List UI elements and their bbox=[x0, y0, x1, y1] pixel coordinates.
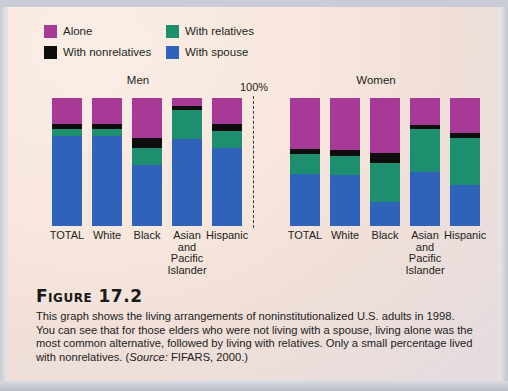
bar-segment-alone bbox=[212, 98, 242, 124]
x-axis-label: AsianandPacificIslander bbox=[166, 230, 208, 276]
x-axis-label-line: Hispanic bbox=[206, 230, 248, 242]
bar-segment-with-relatives bbox=[410, 129, 440, 173]
x-axis-label-line: Pacific bbox=[166, 253, 208, 265]
bar-segment-with-spouse bbox=[450, 185, 480, 226]
x-axis-label: Black bbox=[364, 230, 406, 242]
x-axis-label: Black bbox=[126, 230, 168, 242]
bar-men-asian-and-pacific-islander bbox=[172, 98, 202, 226]
x-axis-label: TOTAL bbox=[284, 230, 326, 242]
bar-segment-alone bbox=[172, 98, 202, 106]
bar-segment-with-relatives bbox=[330, 156, 360, 175]
figure-page: AloneWith relativesWith nonrelativesWith… bbox=[0, 0, 508, 391]
x-axis-label-line: Asian bbox=[404, 230, 446, 242]
x-axis-label-line: Black bbox=[126, 230, 168, 242]
bar-segment-with-spouse bbox=[410, 172, 440, 226]
figure-number: Figure 17.2 bbox=[36, 286, 476, 306]
bar-segment-with-relatives bbox=[52, 129, 82, 137]
bar-segment-alone bbox=[410, 98, 440, 125]
bar-segment-with-relatives bbox=[370, 163, 400, 201]
bar-segment-with-relatives bbox=[92, 129, 122, 137]
bar-men-black bbox=[132, 98, 162, 226]
bar-men-total bbox=[52, 98, 82, 226]
caption-source-value: FIFARS, 2000.) bbox=[168, 351, 248, 363]
x-axis-label: Hispanic bbox=[206, 230, 248, 242]
bar-segment-with-nonrelatives bbox=[370, 153, 400, 163]
bar-segment-alone bbox=[330, 98, 360, 150]
x-axis-label-line: White bbox=[324, 230, 366, 242]
x-axis-label-line: Asian bbox=[166, 230, 208, 242]
bar-segment-with-spouse bbox=[172, 139, 202, 226]
x-axis-label: White bbox=[324, 230, 366, 242]
bar-segment-with-spouse bbox=[330, 175, 360, 226]
bar-women-hispanic bbox=[450, 98, 480, 226]
x-axis-label: AsianandPacificIslander bbox=[404, 230, 446, 276]
figure-caption: Figure 17.2 This graph shows the living … bbox=[36, 286, 476, 364]
bar-segment-alone bbox=[290, 98, 320, 149]
bar-men-white bbox=[92, 98, 122, 226]
x-axis-label-line: Hispanic bbox=[444, 230, 486, 242]
x-axis-label-line: TOTAL bbox=[46, 230, 88, 242]
x-axis-label-line: White bbox=[86, 230, 128, 242]
x-axis-label: White bbox=[86, 230, 128, 242]
bar-women-asian-and-pacific-islander bbox=[410, 98, 440, 226]
x-axis-label-line: Islander bbox=[166, 265, 208, 277]
bar-segment-with-nonrelatives bbox=[132, 138, 162, 148]
caption-source-label: Source: bbox=[129, 351, 168, 363]
bar-segment-with-relatives bbox=[132, 148, 162, 165]
bar-segment-with-relatives bbox=[172, 110, 202, 139]
bar-segment-alone bbox=[132, 98, 162, 138]
axis-scale-label: 100% bbox=[240, 81, 268, 93]
x-axis-label-line: TOTAL bbox=[284, 230, 326, 242]
bar-women-white bbox=[330, 98, 360, 226]
bar-segment-with-spouse bbox=[370, 202, 400, 226]
x-axis-label: Hispanic bbox=[444, 230, 486, 242]
bar-segment-with-relatives bbox=[212, 131, 242, 148]
x-axis-label-line: Black bbox=[364, 230, 406, 242]
bar-segment-with-spouse bbox=[290, 174, 320, 226]
bar-women-total bbox=[290, 98, 320, 226]
bar-segment-with-spouse bbox=[52, 136, 82, 226]
bar-women-black bbox=[370, 98, 400, 226]
page-edge-bottom bbox=[0, 381, 508, 391]
bar-segment-with-spouse bbox=[212, 148, 242, 226]
caption-text: This graph shows the living arrangements… bbox=[36, 310, 476, 364]
bar-segment-alone bbox=[92, 98, 122, 124]
bar-segment-alone bbox=[370, 98, 400, 153]
x-axis-label: TOTAL bbox=[46, 230, 88, 242]
bar-segment-alone bbox=[52, 98, 82, 124]
bar-segment-with-relatives bbox=[450, 138, 480, 185]
stacked-bar-chart: 100% MenTOTALWhiteBlackAsianandPacificIs… bbox=[0, 0, 508, 280]
bar-segment-with-spouse bbox=[132, 165, 162, 226]
bar-segment-with-spouse bbox=[92, 136, 122, 226]
panel-divider bbox=[253, 96, 254, 228]
x-axis-label-line: Pacific bbox=[404, 253, 446, 265]
bar-men-hispanic bbox=[212, 98, 242, 226]
caption-body: This graph shows the living arrangements… bbox=[36, 310, 473, 363]
panel-title-women: Women bbox=[316, 74, 436, 86]
panel-title-men: Men bbox=[78, 74, 198, 86]
bar-segment-with-relatives bbox=[290, 154, 320, 173]
x-axis-label-line: Islander bbox=[404, 265, 446, 277]
bar-segment-with-nonrelatives bbox=[212, 124, 242, 132]
bar-segment-alone bbox=[450, 98, 480, 133]
